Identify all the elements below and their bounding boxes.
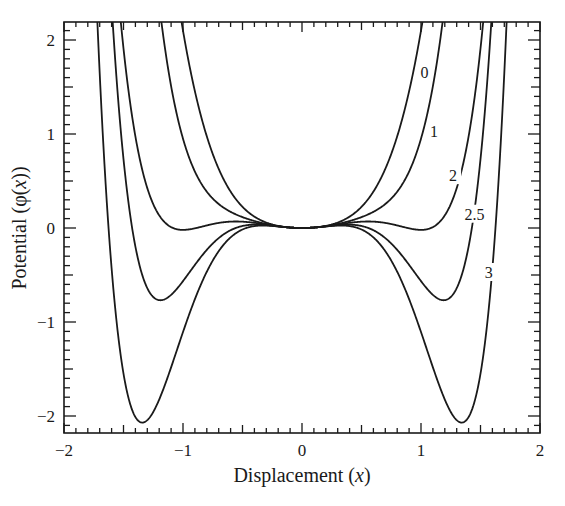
y-tick-label: −1 — [37, 313, 55, 332]
x-tick-label: −2 — [55, 441, 73, 460]
curve-label-2: 2 — [449, 167, 457, 184]
y-axis-title: Potential (φ(x)) — [8, 166, 31, 289]
curve-1 — [64, 0, 540, 228]
x-tick-label: −1 — [174, 441, 192, 460]
y-tick-label: −2 — [37, 407, 55, 426]
y-tick-label: 0 — [47, 219, 56, 238]
x-axis-title: Displacement (x) — [233, 464, 370, 487]
curve-2-5 — [64, 0, 540, 300]
x-tick-label: 2 — [536, 441, 545, 460]
curve-label-2-5: 2.5 — [465, 206, 485, 223]
y-tick-label: 2 — [47, 31, 56, 50]
curve-label-3: 3 — [485, 264, 493, 281]
curve-0 — [64, 0, 540, 228]
curve-label-0: 0 — [421, 64, 429, 81]
potential-chart: 0122.53 −2−1012−2−1012 Displacement (x) … — [0, 0, 565, 506]
x-tick-label: 0 — [298, 441, 307, 460]
curve-2 — [64, 0, 540, 230]
curve-label-1: 1 — [430, 123, 438, 140]
y-tick-label: 1 — [47, 125, 56, 144]
x-tick-label: 1 — [417, 441, 426, 460]
